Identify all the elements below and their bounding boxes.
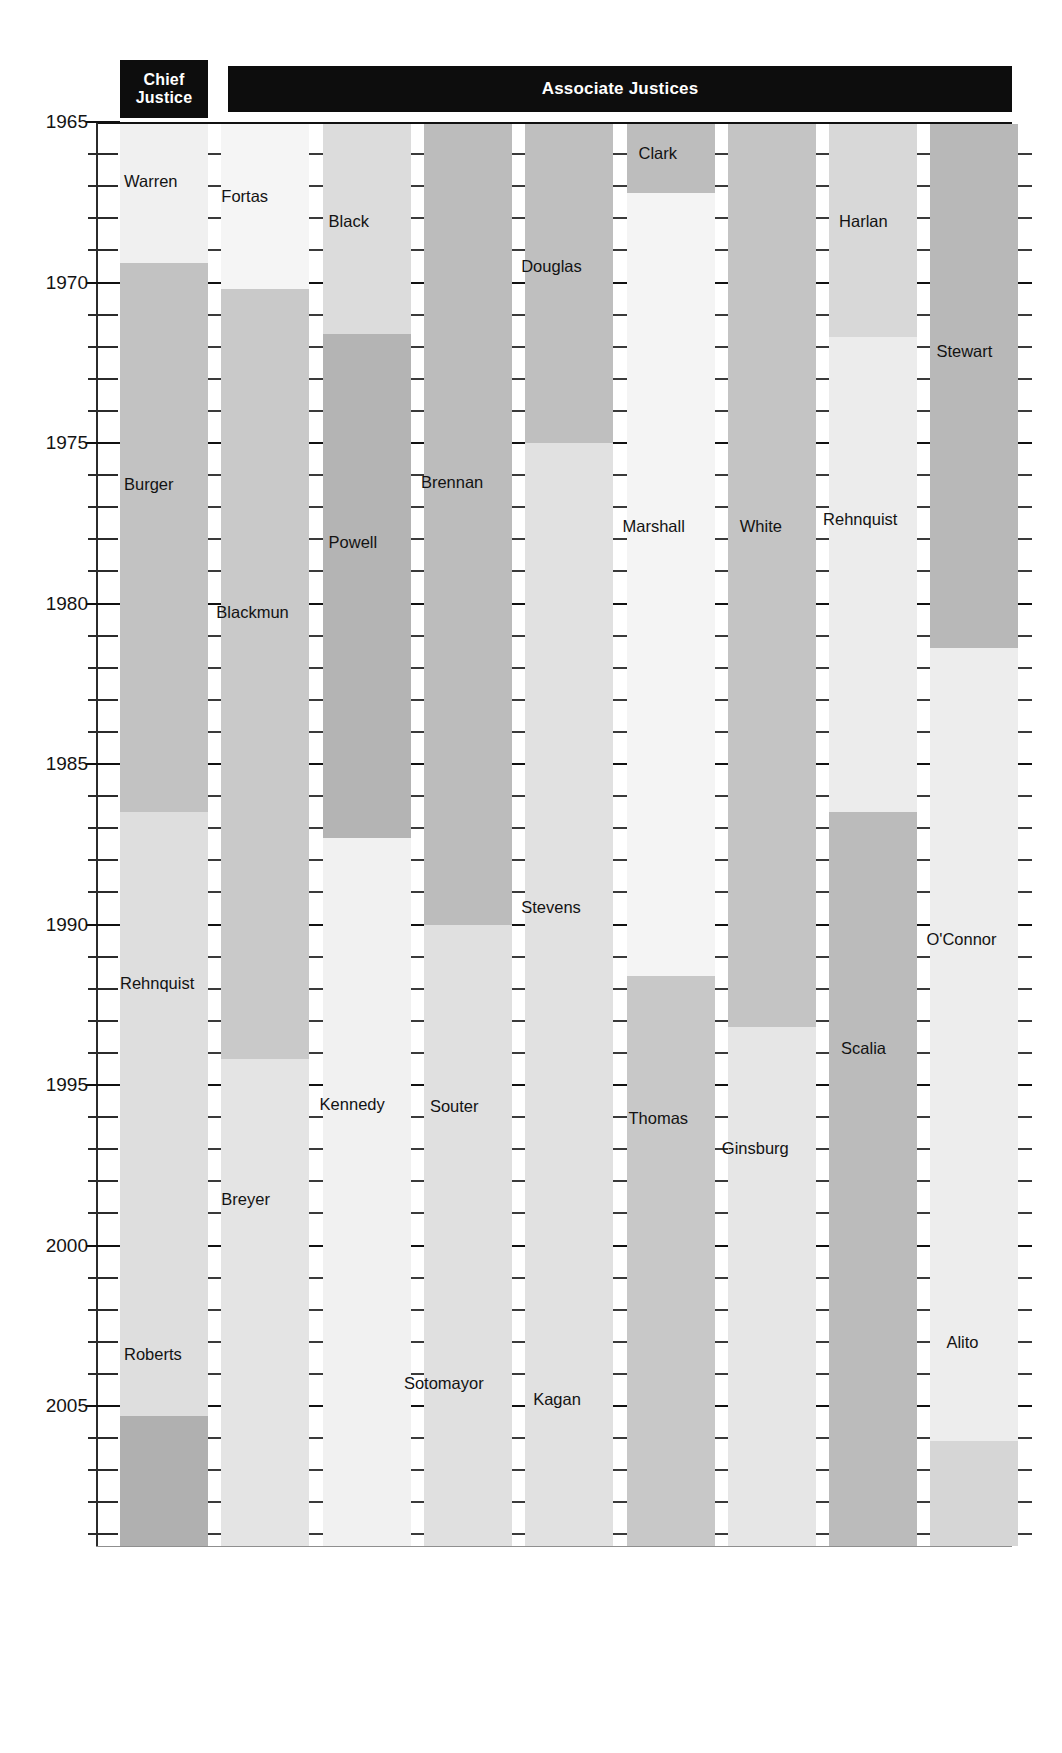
interior-tick [512,1245,526,1247]
interior-tick [309,603,323,605]
interior-tick [208,635,222,637]
interior-tick [1018,1373,1032,1375]
interior-tick [715,795,729,797]
interior-tick [917,795,931,797]
interior-tick [1018,570,1032,572]
interior-tick [208,1020,222,1022]
interior-tick [917,1501,931,1503]
justice-term-bar[interactable] [424,925,512,1547]
interior-tick [208,1245,222,1247]
justice-term-bar[interactable] [120,1416,208,1546]
interior-tick [1018,827,1032,829]
justice-term-bar[interactable] [525,124,613,443]
justice-term-bar[interactable] [120,263,208,812]
y-axis-label: 1980 [26,593,88,615]
interior-tick [411,1405,425,1407]
y-tick-minor [88,891,118,893]
y-tick-minor [88,217,118,219]
interior-tick [512,442,526,444]
interior-tick [816,1212,830,1214]
y-tick-minor [88,1180,118,1182]
justice-term-bar[interactable] [728,1027,816,1546]
interior-tick [917,603,931,605]
interior-tick [309,1533,323,1535]
interior-tick [512,378,526,380]
interior-tick [512,1148,526,1150]
justice-term-bar[interactable] [930,1441,1018,1546]
justice-term-bar[interactable] [627,193,715,976]
justice-name-label: Fortas [221,187,268,206]
interior-tick [715,1469,729,1471]
y-tick-major [86,282,120,284]
justice-name-label: Alito [946,1333,978,1352]
justice-term-bar[interactable] [728,124,816,1027]
justice-term-bar[interactable] [930,648,1018,1441]
justice-term-bar[interactable] [221,124,309,289]
interior-tick [411,1084,425,1086]
y-tick-minor [88,1020,118,1022]
interior-tick [411,249,425,251]
interior-tick [816,570,830,572]
y-tick-minor [88,1277,118,1279]
interior-tick [512,859,526,861]
justice-term-bar[interactable] [627,976,715,1546]
y-tick-major [86,1405,120,1407]
interior-tick [1018,1052,1032,1054]
y-tick-major [86,442,120,444]
y-tick-minor [88,1212,118,1214]
justice-name-label: Rehnquist [120,974,194,993]
interior-tick [613,570,627,572]
interior-tick [816,410,830,412]
interior-tick [917,185,931,187]
interior-tick [1018,1501,1032,1503]
justice-name-label: Marshall [623,517,685,536]
interior-tick [917,763,931,765]
interior-tick [1018,1020,1032,1022]
interior-tick [613,474,627,476]
interior-tick [715,442,729,444]
interior-tick [411,699,425,701]
justice-term-bar[interactable] [424,124,512,925]
interior-tick [208,891,222,893]
associate-justice-column [525,0,613,1546]
interior-tick [512,988,526,990]
associate-justice-column [728,0,816,1546]
justice-term-bar[interactable] [525,443,613,1546]
justice-term-bar[interactable] [120,812,208,1415]
interior-tick [613,699,627,701]
interior-tick [715,988,729,990]
justice-term-bar[interactable] [221,1059,309,1546]
interior-tick [411,1245,425,1247]
interior-tick [1018,1148,1032,1150]
interior-tick [309,827,323,829]
interior-tick [411,506,425,508]
interior-tick [512,667,526,669]
justice-term-bar[interactable] [930,124,1018,648]
y-tick-minor [88,570,118,572]
interior-tick [411,410,425,412]
interior-tick [512,891,526,893]
interior-tick [715,538,729,540]
justice-term-bar[interactable] [829,337,917,812]
justice-term-bar[interactable] [120,124,208,263]
interior-tick [917,1533,931,1535]
interior-tick [613,795,627,797]
justice-term-bar[interactable] [221,289,309,1059]
justice-name-label: Breyer [221,1190,270,1209]
y-tick-major [86,1245,120,1247]
interior-tick [613,635,627,637]
interior-tick [208,346,222,348]
justice-name-label: White [740,517,782,536]
justice-term-bar[interactable] [323,334,411,838]
interior-tick [816,603,830,605]
interior-tick [309,891,323,893]
interior-tick [309,667,323,669]
justice-term-bar[interactable] [829,812,917,1546]
y-tick-minor [88,474,118,476]
justice-name-label: Thomas [629,1109,689,1128]
y-tick-minor [88,1373,118,1375]
interior-tick [715,1245,729,1247]
justice-term-bar[interactable] [323,838,411,1546]
interior-tick [309,442,323,444]
interior-tick [208,314,222,316]
